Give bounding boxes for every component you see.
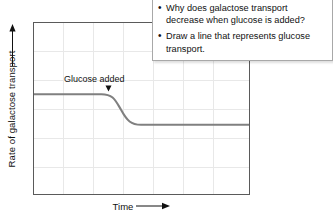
x-axis-right-arrow-icon bbox=[136, 202, 170, 210]
glucose-added-annotation: Glucose added bbox=[64, 74, 125, 84]
callout-question-2: Draw a line that represents glucose tran… bbox=[166, 30, 326, 54]
galactose-transport-figure: Rate of galactose transport Glucose adde… bbox=[0, 0, 333, 217]
y-axis-up-arrow-icon bbox=[9, 24, 16, 66]
callout-question-1: Why does galactose transport decrease wh… bbox=[166, 2, 326, 26]
bullet-icon: • bbox=[158, 30, 166, 42]
callout-item: • Draw a line that represents glucose tr… bbox=[158, 30, 326, 54]
bullet-icon: • bbox=[158, 2, 166, 14]
x-axis-label: Time bbox=[113, 201, 134, 212]
question-callout-box: • Why does galactose transport decrease … bbox=[152, 0, 333, 61]
x-axis-label-container: Time bbox=[33, 197, 250, 215]
down-triangle-icon bbox=[105, 85, 112, 92]
callout-item: • Why does galactose transport decrease … bbox=[158, 2, 326, 26]
y-axis-label: Rate of galactose transport bbox=[6, 51, 17, 168]
